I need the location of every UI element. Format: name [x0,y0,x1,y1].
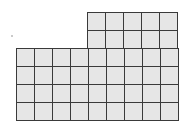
grid-cell [17,103,35,121]
grid-cell [125,67,143,85]
grid-cell [161,103,179,121]
grid-cell [125,85,143,103]
dot-mark [11,35,13,37]
grid-cell [143,49,161,67]
grid-cell [161,49,179,67]
grid-cell [89,85,107,103]
grid-cell [89,103,107,121]
grid-cell [35,85,53,103]
grid-cell [71,49,89,67]
grid-cell [17,67,35,85]
grid-cell [124,13,142,31]
grid-cell [125,103,143,121]
grid-cell [161,85,179,103]
grid-cell [107,67,125,85]
grid-cell [89,67,107,85]
grid-cell [17,85,35,103]
grid-cell [143,103,161,121]
grid-cell [88,31,106,49]
grid-cell [124,31,142,49]
grid-cell [35,49,53,67]
grid-cell [107,49,125,67]
grid-cell [88,13,106,31]
grid-cell [125,49,143,67]
grid-cell [160,31,178,49]
grid-cell [89,49,107,67]
grid-cell [107,85,125,103]
grid-cell [17,49,35,67]
grid-cell [142,31,160,49]
grid-cell [71,67,89,85]
bottom-grid-block [16,48,179,121]
grid-cell [71,103,89,121]
grid-cell [106,31,124,49]
grid-cell [53,49,71,67]
grid-cell [53,67,71,85]
grid-cell [106,13,124,31]
top-grid-block [87,12,178,49]
grid-cell [160,13,178,31]
grid-cell [35,67,53,85]
grid-cell [71,85,89,103]
grid-cell [107,103,125,121]
grid-cell [142,13,160,31]
grid-cell [143,85,161,103]
grid-cell [35,103,53,121]
grid-cell [161,67,179,85]
grid-cell [53,85,71,103]
grid-cell [143,67,161,85]
grid-cell [53,103,71,121]
